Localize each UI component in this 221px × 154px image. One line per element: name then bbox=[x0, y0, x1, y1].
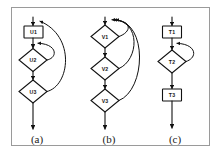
node-v1-label: V1 bbox=[102, 34, 109, 40]
node-u3-label: U3 bbox=[30, 89, 37, 95]
node-v3-label: V3 bbox=[102, 98, 109, 104]
panel-c: T1 T2 T3 (c) bbox=[158, 17, 194, 146]
panel-b: V1 V2 V3 (b) bbox=[91, 17, 140, 146]
node-u1-label: U1 bbox=[30, 29, 37, 35]
figure-root: U1 U2 U3 (a) V1 bbox=[0, 0, 221, 154]
node-t2-label: T2 bbox=[169, 59, 175, 65]
edge-backloop-v2 bbox=[114, 20, 134, 69]
node-t3-label: T3 bbox=[169, 92, 175, 98]
node-v2-label: V2 bbox=[102, 66, 109, 72]
panel-a: U1 U2 U3 (a) bbox=[19, 17, 66, 146]
flowchart-diagram: U1 U2 U3 (a) V1 bbox=[0, 0, 221, 154]
node-t1-label: T1 bbox=[169, 29, 175, 35]
node-u2-label: U2 bbox=[30, 57, 37, 63]
panel-a-caption: (a) bbox=[31, 133, 44, 146]
panel-c-caption: (c) bbox=[169, 133, 182, 146]
panel-b-caption: (b) bbox=[103, 133, 116, 146]
edge-backloop-v3 bbox=[116, 20, 140, 101]
